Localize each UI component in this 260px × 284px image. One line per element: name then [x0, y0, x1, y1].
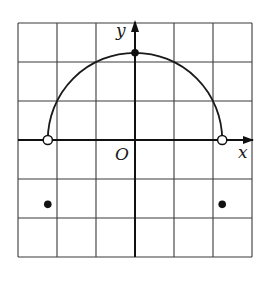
coordinate-graph: x y O	[0, 0, 260, 284]
origin-label: O	[115, 144, 129, 164]
y-axis-arrow-icon	[131, 20, 139, 32]
y-axis-label: y	[115, 20, 126, 40]
isolated-left-filled-point	[44, 201, 52, 209]
isolated-right-filled-point	[218, 201, 226, 209]
top-point-filled-point	[131, 49, 139, 57]
left-endpoint-open-point	[43, 135, 52, 144]
right-endpoint-open-point	[218, 135, 227, 144]
x-axis-label: x	[238, 142, 248, 162]
